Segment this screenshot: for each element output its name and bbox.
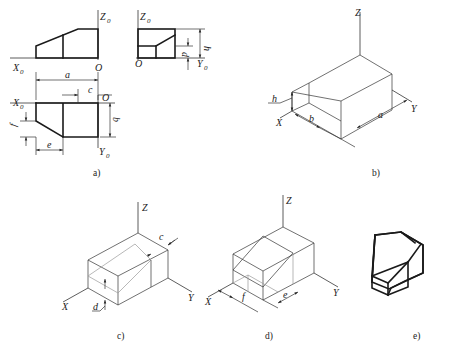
dim-e-label: e [47,139,52,150]
caption-d: d) [265,331,273,342]
panel-b: Z X Y h b a b) [268,7,418,179]
caption-a: a) [93,168,100,179]
dim-a-label: a [65,69,70,80]
technical-drawing-figure: Z 0 X 0 O Z 0 O Y 0 h d [0,0,466,353]
b-z-label: Z [355,7,361,18]
dim-c-label: c [88,84,93,95]
top-origin-label: O [102,92,109,103]
top-view: a c O X 0 b f e Y 0 [7,69,122,160]
b-dim-h-label: h [272,93,277,104]
side-z0-label: Z [140,11,146,22]
front-z0-label: Z [100,11,106,22]
c-dim-c-label: c [159,231,164,242]
top-y0-label: Y [99,146,106,157]
caption-c: c) [117,331,124,342]
b-y-label: Y [411,103,418,114]
svg-text:0: 0 [20,103,24,111]
c-x-label: X [61,301,69,312]
dim-h-label: h [202,46,213,51]
svg-text:0: 0 [106,152,110,160]
front-x0-label: X [12,62,20,73]
c-dim-d-label: d [93,301,99,312]
front-view: Z 0 X 0 O [10,10,111,76]
dim-b-label: b [111,117,122,122]
dim-d-label: d [180,52,191,58]
top-x0-label: X [12,97,20,108]
d-z-label: Z [286,195,292,206]
svg-text:0: 0 [204,64,208,72]
caption-e: e) [413,331,420,342]
side-origin-label: O [135,58,142,69]
b-x-label: X [275,117,283,128]
panel-c: Z X Y c d c) [61,202,195,342]
d-dim-f-label: f [242,291,246,302]
side-view: Z 0 O Y 0 h d [135,10,213,72]
d-y-label: Y [333,287,340,298]
svg-text:0: 0 [20,68,24,76]
c-y-label: Y [188,292,195,303]
panel-e: e) [372,232,423,342]
d-dim-e-label: e [283,289,288,300]
panel-a: Z 0 X 0 O Z 0 O Y 0 h d [7,10,213,179]
dim-f-label: f [7,121,19,127]
b-dim-a-label: a [378,109,383,120]
d-x-label: X [204,296,212,307]
caption-b: b) [372,168,380,179]
b-dim-b-label: b [309,113,314,124]
front-origin-label: O [95,62,102,73]
svg-text:0: 0 [147,17,151,25]
svg-text:0: 0 [107,17,111,25]
side-y0-label: Y [197,58,204,69]
panel-d: Z X Y f e d) [204,195,340,342]
c-z-label: Z [142,202,148,213]
